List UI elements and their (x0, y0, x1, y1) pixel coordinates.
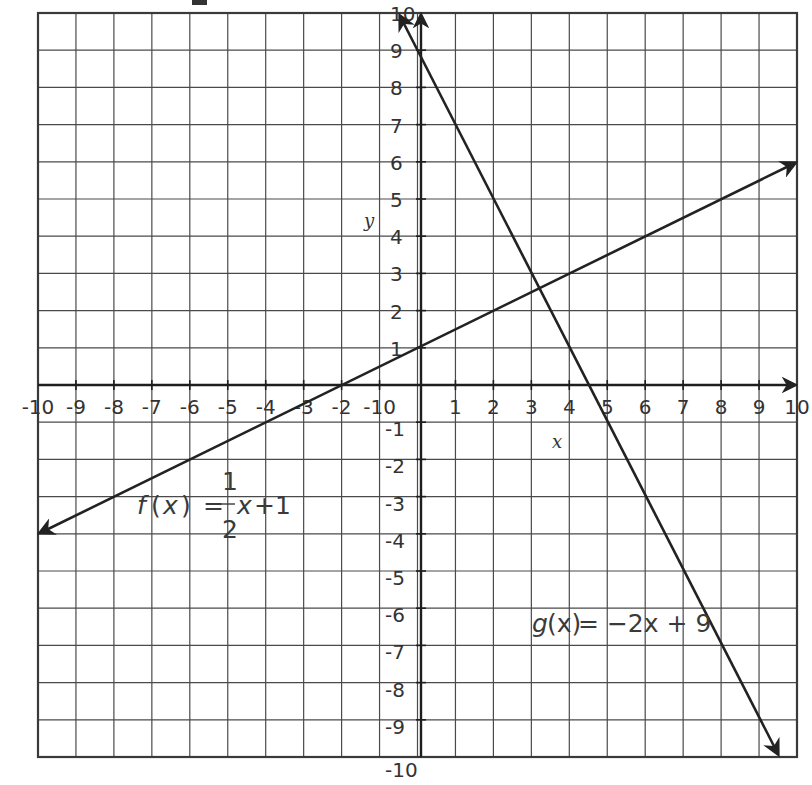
x-tick-label: 1 (449, 395, 462, 419)
svg-text:= −2x + 9: = −2x + 9 (578, 609, 711, 638)
y-tick-labels: 12345678910-1-2-3-4-5-6-7-8-9-10 (385, 2, 418, 782)
svg-text:x: x (236, 491, 252, 520)
y-tick-label: -1 (385, 417, 405, 441)
x-axis-label: x (552, 431, 562, 452)
y-tick-label: 6 (390, 151, 403, 175)
x-tick-label: 10 (784, 395, 809, 419)
x-tick-label: 2 (487, 395, 500, 419)
x-tick-label: -8 (104, 395, 124, 419)
x-tick-label: -6 (180, 395, 200, 419)
y-tick-label: 2 (390, 300, 403, 324)
y-tick-label: 9 (390, 39, 403, 63)
g-equation-label: g (x) = −2x + 9 (532, 609, 711, 638)
x-tick-label: -5 (218, 395, 238, 419)
x-tick-label: -4 (256, 395, 276, 419)
cropped-mark (192, 0, 207, 5)
x-tick-label: 9 (753, 395, 766, 419)
y-tick-label: 8 (390, 76, 403, 100)
y-tick-label: -4 (385, 529, 405, 553)
y-tick-label: -7 (385, 640, 405, 664)
x-tick-label: 4 (563, 395, 576, 419)
svg-text:=: = (203, 491, 224, 520)
svg-text:2: 2 (222, 515, 238, 544)
svg-text:g: g (532, 609, 548, 638)
y-tick-label: -2 (385, 454, 405, 478)
x-tick-label: -10 (22, 395, 55, 419)
f-equation-label: f ( x ) = 1 2 x +1 (137, 467, 291, 544)
svg-text:x: x (162, 491, 178, 520)
x-tick-label: -2 (332, 395, 352, 419)
svg-text:(: ( (151, 491, 161, 520)
svg-text:f: f (137, 491, 149, 520)
x-tick-labels: -10-9-8-7-6-5-4-3-2-1012345678910 (22, 395, 810, 419)
y-tick-label: -10 (385, 758, 418, 782)
x-tick-label: 5 (601, 395, 614, 419)
y-tick-label: -6 (385, 603, 405, 627)
svg-text:+1: +1 (254, 491, 291, 520)
x-tick-label: 3 (525, 395, 538, 419)
y-axis-label: y (363, 210, 375, 231)
y-tick-label: -3 (385, 492, 405, 516)
y-tick-label: 7 (390, 114, 403, 138)
x-tick-label: 7 (677, 395, 690, 419)
x-tick-label: -9 (66, 395, 86, 419)
coordinate-plane: -10-9-8-7-6-5-4-3-2-1012345678910 123456… (0, 0, 812, 785)
x-tick-label: 8 (715, 395, 728, 419)
y-tick-label: 4 (390, 225, 403, 249)
x-tick-label: -10 (363, 395, 396, 419)
svg-text:): ) (181, 491, 191, 520)
y-tick-label: -9 (385, 715, 405, 739)
x-tick-label: -7 (142, 395, 162, 419)
y-tick-label: -5 (385, 566, 405, 590)
y-tick-label: 5 (390, 188, 403, 212)
y-tick-label: 3 (390, 262, 403, 286)
x-tick-label: 6 (639, 395, 652, 419)
y-tick-label: -8 (385, 678, 405, 702)
svg-text:1: 1 (222, 467, 238, 496)
svg-text:(x): (x) (547, 609, 581, 638)
